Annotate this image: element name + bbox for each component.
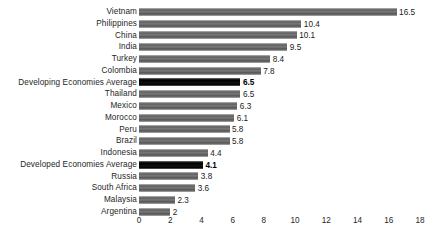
category-label: Developed Economies Average — [0, 159, 137, 171]
bar — [139, 32, 297, 39]
bar-row: Developed Economies Average4.1 — [0, 159, 439, 171]
x-tick-label: 2 — [155, 216, 185, 225]
bar — [139, 138, 230, 145]
bar-value-label: 4.1 — [206, 161, 217, 168]
bar — [139, 44, 287, 51]
bar — [139, 20, 301, 27]
x-tick-label: 6 — [218, 216, 248, 225]
bar-row: Mexico6.3 — [0, 100, 439, 112]
bar-row: Vietnam16.5 — [0, 6, 439, 18]
bar-wrapper: 5.8 — [139, 138, 243, 145]
bar-row: China10.1 — [0, 30, 439, 42]
bar-wrapper: 6.5 — [139, 79, 254, 86]
bar-value-label: 6.5 — [243, 91, 254, 98]
category-label: Morocco — [0, 112, 137, 124]
bar — [139, 149, 208, 156]
bar — [139, 196, 175, 203]
bar-chart: Vietnam16.5Philippines10.4China10.1India… — [0, 0, 439, 240]
bar-wrapper: 7.8 — [139, 67, 275, 74]
bar-value-label: 6.5 — [243, 79, 254, 86]
bar — [139, 8, 397, 15]
bar-value-label: 16.5 — [399, 8, 415, 15]
bar-row: South Africa3.6 — [0, 182, 439, 194]
bar — [139, 126, 230, 133]
bar-wrapper: 16.5 — [139, 8, 415, 15]
bar-wrapper: 2.3 — [139, 196, 189, 203]
category-label: Developing Economies Average — [0, 77, 137, 89]
bar-highlighted — [139, 79, 240, 86]
bar-wrapper: 4.4 — [139, 149, 222, 156]
bar-row: Indonesia4.4 — [0, 147, 439, 159]
bar-value-label: 3.6 — [198, 185, 209, 192]
bar-value-label: 5.8 — [232, 138, 243, 145]
category-label: Turkey — [0, 53, 137, 65]
bar-wrapper: 6.3 — [139, 102, 251, 109]
bar-value-label: 10.1 — [299, 32, 315, 39]
bar-wrapper: 6.1 — [139, 114, 248, 121]
bar-highlighted — [139, 161, 203, 168]
bar-value-label: 6.1 — [237, 114, 248, 121]
bar-value-label: 9.5 — [290, 44, 301, 51]
bar-value-label: 2.3 — [177, 196, 188, 203]
category-label: Malaysia — [0, 194, 137, 206]
x-axis: 024681012141618 — [0, 216, 439, 232]
category-label: Philippines — [0, 18, 137, 30]
bar-row: Russia3.8 — [0, 171, 439, 183]
bar-row: Developing Economies Average6.5 — [0, 77, 439, 89]
x-tick-label: 4 — [186, 216, 216, 225]
category-label: Mexico — [0, 100, 137, 112]
bar-wrapper: 5.8 — [139, 126, 243, 133]
bar-value-label: 6.3 — [240, 102, 251, 109]
bar-value-label: 5.8 — [232, 126, 243, 133]
x-tick-label: 18 — [405, 216, 435, 225]
x-tick-label: 16 — [374, 216, 404, 225]
bar-wrapper: 6.5 — [139, 91, 254, 98]
category-label: Brazil — [0, 135, 137, 147]
bar-row: India9.5 — [0, 41, 439, 53]
bar-value-label: 8.4 — [273, 55, 284, 62]
bar — [139, 173, 198, 180]
bar-row: Philippines10.4 — [0, 18, 439, 30]
bar-value-label: 4.4 — [210, 149, 221, 156]
bar-wrapper: 3.6 — [139, 185, 209, 192]
bar-value-label: 3.8 — [201, 173, 212, 180]
category-label: Vietnam — [0, 6, 137, 18]
category-label: China — [0, 30, 137, 42]
category-label: Colombia — [0, 65, 137, 77]
bar-wrapper: 9.5 — [139, 44, 301, 51]
category-label: Indonesia — [0, 147, 137, 159]
bar — [139, 208, 170, 215]
category-label: Peru — [0, 124, 137, 136]
bar-value-label: 7.8 — [263, 67, 274, 74]
bar — [139, 91, 240, 98]
bar-row: Brazil5.8 — [0, 135, 439, 147]
bar-wrapper: 8.4 — [139, 55, 284, 62]
x-tick-label: 14 — [343, 216, 373, 225]
bar-wrapper: 2 — [139, 208, 177, 215]
x-tick-label: 12 — [311, 216, 341, 225]
bar — [139, 114, 234, 121]
bar-row: Malaysia2.3 — [0, 194, 439, 206]
category-label: South Africa — [0, 182, 137, 194]
category-label: Thailand — [0, 88, 137, 100]
bar-row: Turkey8.4 — [0, 53, 439, 65]
bar-wrapper: 10.4 — [139, 20, 320, 27]
bar — [139, 67, 261, 74]
bar-wrapper: 10.1 — [139, 32, 315, 39]
x-tick-label: 10 — [280, 216, 310, 225]
category-label: Russia — [0, 171, 137, 183]
bar-row: Peru5.8 — [0, 124, 439, 136]
bar-row: Morocco6.1 — [0, 112, 439, 124]
bar — [139, 102, 237, 109]
x-tick-label: 0 — [124, 216, 154, 225]
bar-wrapper: 4.1 — [139, 161, 217, 168]
bar-row: Colombia7.8 — [0, 65, 439, 77]
category-label: India — [0, 41, 137, 53]
bar-value-label: 2 — [173, 208, 178, 215]
bar-wrapper: 3.8 — [139, 173, 212, 180]
bar — [139, 185, 195, 192]
plot-area: Vietnam16.5Philippines10.4China10.1India… — [0, 0, 439, 240]
x-tick-label: 8 — [249, 216, 279, 225]
bar-value-label: 10.4 — [304, 20, 320, 27]
bar-row: Thailand6.5 — [0, 88, 439, 100]
